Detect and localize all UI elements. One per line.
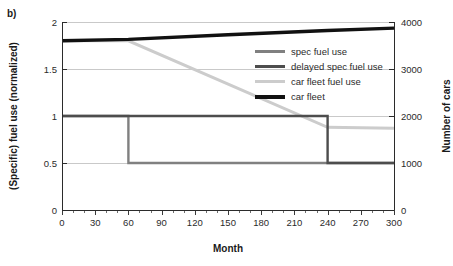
y-axis-left-tick-label: 1.5 [44, 64, 57, 75]
legend-label: car fleet [291, 92, 325, 102]
x-axis-title: Month [213, 243, 243, 254]
y-axis-right-tick-label: 2000 [401, 111, 422, 122]
panel-label: b) [7, 8, 16, 19]
legend-swatch [255, 80, 285, 83]
legend-swatch [255, 65, 285, 68]
x-axis-tick-label: 30 [90, 217, 101, 228]
legend-label: spec fuel use [291, 47, 347, 57]
chart-legend: spec fuel usedelayed spec fuel usecar fl… [255, 44, 395, 104]
y-axis-right-tick-label: 1000 [401, 158, 422, 169]
x-axis-tick-label: 270 [353, 217, 369, 228]
x-axis-tick-label: 150 [220, 217, 236, 228]
x-axis-tick-label: 180 [253, 217, 269, 228]
x-axis-tick-label: 60 [123, 217, 134, 228]
y-axis-left-title: (Specific) fuel use (normalized) [8, 42, 19, 190]
y-axis-left-tick-label: 1 [52, 111, 57, 122]
series-line [62, 116, 394, 163]
legend-label: car fleet fuel use [291, 77, 361, 87]
x-axis-tick-label: 0 [59, 217, 64, 228]
legend-item: car fleet fuel use [255, 74, 395, 89]
legend-swatch [255, 50, 285, 53]
legend-label: delayed spec fuel use [291, 62, 383, 72]
y-axis-left-tick-label: 0 [52, 205, 57, 216]
legend-item: spec fuel use [255, 44, 395, 59]
y-axis-right-title: Number of cars [441, 79, 452, 152]
x-axis-line [62, 210, 394, 211]
legend-item: car fleet [255, 89, 395, 104]
x-axis-major-tick [394, 210, 395, 215]
legend-swatch [255, 95, 285, 99]
y-axis-left-tick-label: 0.5 [44, 158, 57, 169]
y-axis-right-tick-label: 3000 [401, 64, 422, 75]
y-axis-left-tick-label: 2 [52, 17, 57, 28]
x-axis-tick-label: 240 [320, 217, 336, 228]
x-axis-tick-label: 90 [156, 217, 167, 228]
series-line [62, 28, 394, 41]
legend-item: delayed spec fuel use [255, 59, 395, 74]
y-axis-right-tick-label: 4000 [401, 17, 422, 28]
y-axis-right-tick-label: 0 [401, 205, 406, 216]
series-line [62, 116, 394, 163]
y-axis-left-line [62, 22, 63, 210]
x-axis-tick-label: 300 [386, 217, 402, 228]
x-axis-tick-label: 210 [286, 217, 302, 228]
figure-panel-b: b) (Specific) fuel use (normalized) Numb… [0, 0, 453, 266]
x-axis-tick-label: 120 [187, 217, 203, 228]
